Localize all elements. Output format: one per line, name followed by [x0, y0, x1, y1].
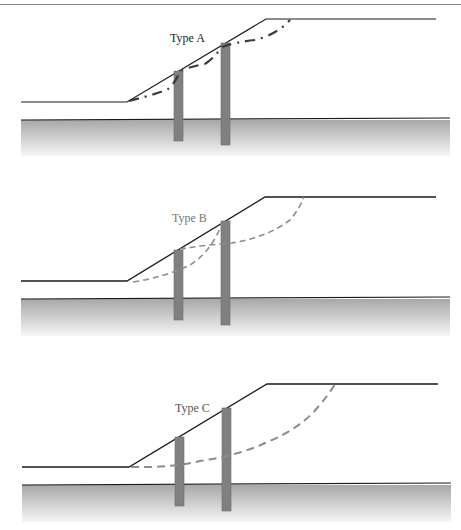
pile-upper [221, 43, 230, 145]
panel-type-b: Type B [0, 165, 461, 345]
ground-surface-line [22, 483, 451, 485]
slope-diagram-type-c: Type C [0, 345, 461, 530]
slope-diagram-type-b: Type B [0, 165, 461, 345]
panel-type-a: Type A [0, 0, 461, 165]
type-label: Type C [175, 401, 210, 415]
pile-lower [174, 250, 183, 320]
ground-stratum [21, 120, 450, 156]
slip-surface-lower [129, 64, 205, 101]
panel-type-c: Type C [0, 345, 461, 530]
slope-diagram-type-a: Type A [0, 0, 461, 165]
pile-upper [221, 221, 230, 325]
ground-stratum [22, 485, 451, 522]
type-label: Type A [170, 31, 205, 45]
pile-lower [175, 437, 184, 506]
slip-surface-deep [131, 384, 335, 467]
ground-surface-line [21, 297, 450, 299]
slip-surface-upper [205, 20, 290, 64]
pile-upper [222, 408, 231, 511]
ground-surface-line [21, 118, 450, 120]
type-label: Type B [172, 211, 207, 225]
ground-stratum [21, 299, 450, 336]
